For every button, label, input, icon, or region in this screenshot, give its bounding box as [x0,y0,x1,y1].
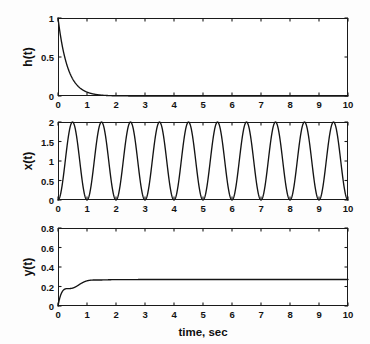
subplot-output-response [58,228,348,306]
xtick-label: 1 [84,99,89,110]
xtick-label: 6 [229,203,234,214]
xtick-label: 5 [200,99,205,110]
xtick-label: 1 [84,203,89,214]
ytick-label: 1.5 [32,136,54,147]
xtick-label: 9 [316,309,321,320]
xtick-label: 0 [55,309,60,320]
xtick-label: 3 [142,309,147,320]
xtick-label: 8 [287,203,292,214]
ytick-label: 0.6 [32,242,54,253]
ytick-label: 2 [32,117,54,128]
xtick-label: 0 [55,99,60,110]
ytick-label: 0 [32,301,54,312]
xtick-label: 6 [229,309,234,320]
ytick-label: 0.5 [32,175,54,186]
xtick-label: 5 [200,309,205,320]
ytick-label: 0.2 [32,281,54,292]
xtick-label: 4 [171,309,176,320]
ytick-label: 1 [32,13,54,24]
xtick-label: 8 [287,99,292,110]
xtick-label: 3 [142,203,147,214]
xtick-label: 8 [287,309,292,320]
xlabel-time-sec: time, sec [178,326,227,338]
ytick-label: 0.8 [32,223,54,234]
xtick-label: 2 [113,309,118,320]
xtick-label: 4 [171,203,176,214]
ytick-label: 0 [32,91,54,102]
xtick-label: 9 [316,99,321,110]
plot-area-2 [58,122,348,200]
figure-canvas: h(t) x(t) y(t) time, sec 01234567891000.… [0,0,370,344]
xtick-label: 10 [343,99,353,110]
xtick-label: 2 [113,99,118,110]
ytick-label: 0.4 [32,262,54,273]
xtick-label: 3 [142,99,147,110]
plot-area-3 [58,228,348,306]
xtick-label: 10 [343,309,353,320]
subplot-input-signal [58,122,348,200]
xtick-label: 10 [343,203,353,214]
xtick-label: 1 [84,309,89,320]
xtick-label: 5 [200,203,205,214]
xtick-label: 7 [258,203,263,214]
xtick-label: 7 [258,99,263,110]
xtick-label: 6 [229,99,234,110]
xtick-label: 4 [171,99,176,110]
xtick-label: 9 [316,203,321,214]
ytick-label: 1 [32,156,54,167]
xtick-label: 0 [55,203,60,214]
xtick-label: 2 [113,203,118,214]
ytick-label: 0.5 [32,52,54,63]
xtick-label: 7 [258,309,263,320]
plot-area-1 [58,18,348,96]
subplot-impulse-response [58,18,348,96]
ytick-label: 0 [32,195,54,206]
